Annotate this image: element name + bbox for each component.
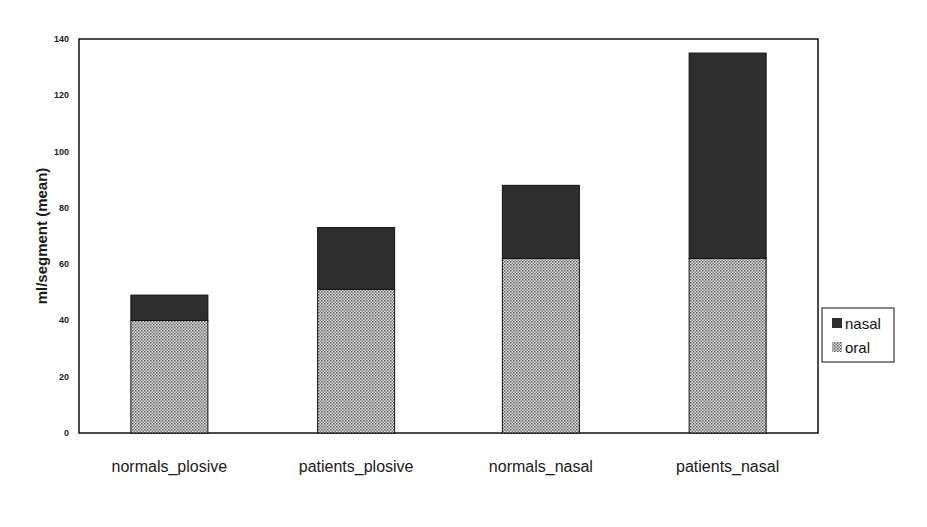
- stacked-bar-chart: 020406080100120140 normals_plosivepatien…: [0, 0, 927, 527]
- x-category-label: patients_plosive: [299, 458, 414, 476]
- bar-segment-nasal: [131, 295, 208, 320]
- y-tick-label: 80: [59, 203, 69, 213]
- x-axis-labels: normals_plosivepatients_plosivenormals_n…: [112, 458, 780, 476]
- bar-segment-oral: [318, 289, 395, 433]
- bar-segment-nasal: [318, 228, 395, 290]
- bar-segment-nasal: [502, 185, 579, 258]
- legend-swatch-oral: [832, 342, 842, 352]
- y-tick-label: 20: [59, 372, 69, 382]
- y-axis: 020406080100120140: [54, 34, 69, 438]
- y-tick-label: 100: [54, 147, 69, 157]
- legend-label-nasal: nasal: [845, 315, 881, 332]
- y-tick-label: 0: [64, 428, 69, 438]
- legend-swatch-nasal: [832, 318, 842, 328]
- y-tick-label: 40: [59, 315, 69, 325]
- y-axis-label: ml/segment (mean): [33, 168, 50, 305]
- x-category-label: patients_nasal: [676, 458, 779, 476]
- y-tick-label: 120: [54, 90, 69, 100]
- y-tick-label: 140: [54, 34, 69, 44]
- bar-segment-oral: [131, 320, 208, 433]
- bar-segment-oral: [502, 259, 579, 433]
- y-tick-label: 60: [59, 259, 69, 269]
- x-category-label: normals_plosive: [112, 458, 228, 476]
- x-category-label: normals_nasal: [489, 458, 593, 476]
- bar-segment-oral: [689, 259, 766, 433]
- legend: nasal oral: [822, 308, 894, 362]
- legend-label-oral: oral: [845, 339, 870, 356]
- bar-segment-nasal: [689, 53, 766, 258]
